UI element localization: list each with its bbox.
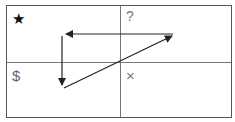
flow-arrows [0,0,235,122]
arrow-diagonal [64,36,172,88]
